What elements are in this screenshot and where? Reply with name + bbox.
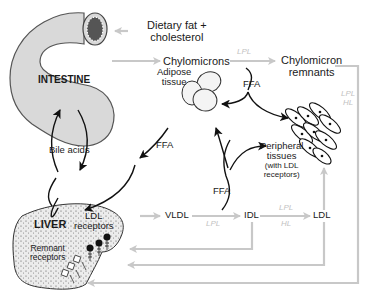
vldl-lpl-enzyme: LPL	[206, 220, 220, 229]
dietary-label: Dietary fat + cholesterol	[147, 19, 207, 43]
remnant-receptors-label: Remnant receptors	[30, 244, 65, 263]
chylomicron-remnants-label: Chylomicron remnants	[281, 54, 342, 78]
vldl-label: VLDL	[165, 210, 189, 220]
adipose-label: Adipose tissue	[157, 67, 191, 88]
ffa-mid-label: FFA	[213, 186, 230, 196]
peripheral-tissues-label: Peripheral tissues (with LDL receptors)	[260, 141, 303, 179]
lipoprotein-diagram: Dietary fat + cholesterol INTESTINE Chyl…	[0, 0, 370, 301]
intestine-label: INTESTINE	[38, 74, 90, 85]
idl-label: IDL	[244, 210, 259, 220]
idl-lpl-enzyme: LPL	[279, 204, 293, 213]
ldl-label: LDL	[313, 210, 330, 220]
remnant-enzymes: LPL HL	[341, 90, 355, 108]
bile-acids-label: Bile acids	[49, 145, 90, 155]
ldl-receptors-label: LDL receptors	[74, 211, 114, 232]
idl-hl-enzyme: HL	[281, 220, 291, 229]
ffa-left-label: FFA	[156, 140, 173, 150]
ffa-top-label: FFA	[243, 79, 260, 89]
chylo-lpl-enzyme: LPL	[237, 48, 251, 57]
liver-label: LIVER	[34, 218, 66, 230]
